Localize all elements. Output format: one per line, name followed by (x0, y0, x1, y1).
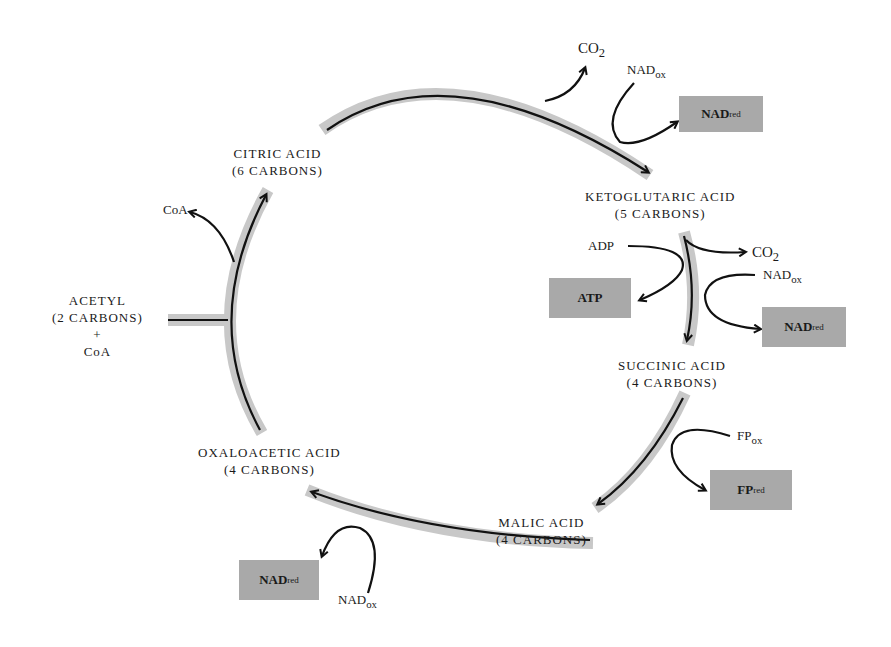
label-citric-acid: CITRIC ACID (6 CARBONS) (232, 145, 323, 179)
label-malic-acid: MALIC ACID (4 CARBONS) (496, 514, 587, 548)
label-ketoglutaric-acid: KETOGLUTARIC ACID (5 CARBONS) (585, 188, 735, 222)
label-fpox: FPox (737, 428, 762, 446)
arrow-co2-out-1 (545, 68, 585, 101)
box-nadred-3: NADred (239, 560, 319, 600)
box-atp: ATP (549, 278, 631, 318)
carbon-count: (4 CARBONS) (198, 461, 341, 478)
label-coa-out: CoA (163, 202, 188, 218)
arrow-adp-atp (628, 246, 683, 300)
label-co2-1: CO2 (578, 40, 605, 61)
box-nadred-1: NADred (679, 96, 763, 132)
coa-label: CoA (52, 343, 143, 360)
label-nadox-1: NADox (627, 62, 666, 80)
carbon-count: (5 CARBONS) (585, 205, 735, 222)
compound-name: ACETYL (52, 292, 143, 309)
label-succinic-acid: SUCCINIC ACID (4 CARBONS) (618, 357, 726, 391)
label-nadox-2: NADox (763, 267, 802, 285)
label-oxaloacetic-acid: OXALOACETIC ACID (4 CARBONS) (198, 444, 341, 478)
plus-sign: + (52, 326, 143, 343)
compound-name: CITRIC ACID (232, 145, 323, 162)
compound-name: SUCCINIC ACID (618, 357, 726, 374)
arrow-nad-2 (705, 275, 760, 329)
compound-name: KETOGLUTARIC ACID (585, 188, 735, 205)
compound-name: MALIC ACID (496, 514, 587, 531)
label-nadox-3: NADox (338, 592, 377, 610)
carbon-count: (4 CARBONS) (496, 531, 587, 548)
arrow-nad-1 (613, 83, 677, 143)
arrow-co2-out-2 (686, 240, 745, 253)
arrow-nad-3 (322, 527, 375, 593)
label-acetyl: ACETYL (2 CARBONS) + CoA (52, 292, 143, 360)
box-fpred: FPred (710, 470, 792, 510)
carbon-count: (6 CARBONS) (232, 162, 323, 179)
carbon-count: (2 CARBONS) (52, 309, 143, 326)
arrow-coa-out (190, 212, 234, 262)
label-co2-2: CO2 (752, 244, 779, 265)
carbon-count: (4 CARBONS) (618, 374, 726, 391)
box-nadred-2: NADred (762, 307, 846, 347)
label-adp: ADP (588, 238, 614, 254)
compound-name: OXALOACETIC ACID (198, 444, 341, 461)
